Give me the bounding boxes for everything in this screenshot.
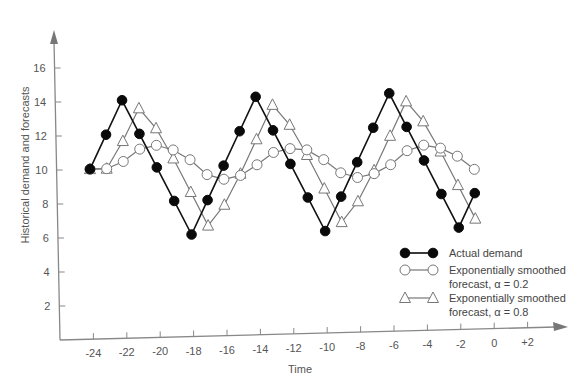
x-axis-line [60, 327, 556, 340]
x-tick-label: -2 [456, 338, 466, 350]
open-circle-marker-icon [336, 168, 346, 178]
filled-circle-marker-icon [219, 161, 229, 171]
open-circle-marker-icon [252, 160, 262, 170]
filled-circle-marker-icon [85, 164, 95, 174]
filled-circle-marker-icon [352, 157, 362, 167]
filled-circle-marker-icon [101, 130, 111, 140]
filled-circle-marker-icon [251, 92, 261, 102]
open-circle-marker-icon [469, 164, 479, 174]
filled-circle-marker-icon [454, 223, 464, 233]
open-circle-marker-icon [168, 145, 178, 155]
filled-circle-marker-icon [286, 159, 296, 169]
filled-circle-marker-icon [135, 129, 145, 139]
open-triangle-marker-icon [401, 95, 412, 106]
open-triangle-marker-icon [267, 99, 278, 110]
open-triangle-marker-icon [385, 130, 396, 141]
x-tick-label: -16 [219, 344, 235, 356]
open-circle-marker-icon [285, 144, 295, 154]
open-circle-marker-icon [386, 160, 396, 170]
x-tick-label: +2 [521, 336, 534, 348]
y-axis-title: Historical demand and forecasts [19, 86, 31, 244]
y-tick-label: 2 [44, 300, 50, 312]
x-tick-label: -6 [389, 339, 399, 351]
open-circle-marker-icon [151, 140, 161, 150]
open-triangle-marker-icon [352, 195, 363, 206]
filled-circle-marker-icon [384, 89, 394, 99]
open-circle-marker-icon [452, 151, 462, 161]
x-tick-label: -12 [286, 342, 302, 354]
open-circle-marker-icon [302, 145, 312, 155]
open-triangle-marker-icon [185, 186, 196, 197]
legend-label: Actual demand [449, 247, 522, 259]
legend-sublabel: forecast, α = 0.2 [449, 278, 528, 290]
y-tick-label: 8 [42, 198, 48, 210]
x-tick-label: -14 [252, 343, 268, 355]
open-triangle-marker-icon [452, 179, 463, 190]
demand-forecast-chart: 246810121416-24-22-20-18-16-14-12-10-8-6… [0, 0, 586, 388]
filled-circle-marker-icon [336, 192, 346, 202]
x-tick-label: -10 [319, 341, 335, 353]
y-axis-arrow-icon [50, 30, 58, 44]
filled-circle-marker-icon [402, 122, 412, 132]
axes: 246810121416-24-22-20-18-16-14-12-10-8-6… [19, 30, 568, 375]
open-circle-marker-icon [268, 147, 278, 157]
open-circle-marker-icon [202, 170, 212, 180]
y-axis-line [54, 40, 60, 340]
legend: Actual demandExponentially smoothedforec… [400, 247, 566, 318]
x-tick-label: -24 [85, 347, 101, 359]
open-triangle-marker-icon [400, 292, 411, 303]
open-triangle-marker-icon [117, 135, 128, 146]
filled-circle-marker-icon [320, 226, 330, 236]
x-tick-label: -18 [186, 345, 202, 357]
filled-circle-marker-icon [428, 248, 438, 258]
open-circle-marker-icon [219, 174, 229, 184]
series-filled-circle [85, 89, 479, 240]
legend-label: Exponentially smoothed [449, 264, 566, 276]
open-triangle-marker-icon [251, 133, 262, 144]
open-circle-marker-icon [419, 140, 429, 150]
open-circle-marker-icon [236, 170, 246, 180]
filled-circle-marker-icon [268, 126, 278, 136]
series-group [85, 89, 481, 240]
legend-item: Exponentially smoothedforecast, α = 0.2 [400, 264, 566, 290]
y-tick-label: 6 [43, 232, 49, 244]
open-circle-marker-icon [135, 144, 145, 154]
filled-circle-marker-icon [203, 195, 213, 205]
x-tick-label: 0 [491, 337, 497, 349]
filled-circle-marker-icon [400, 248, 410, 258]
series-line [90, 101, 475, 225]
x-tick-label: -4 [423, 338, 433, 350]
filled-circle-marker-icon [368, 123, 378, 133]
open-triangle-marker-icon [428, 292, 439, 303]
y-tick-label: 10 [35, 164, 47, 176]
filled-circle-marker-icon [437, 189, 447, 199]
open-circle-marker-icon [353, 172, 363, 182]
legend-sublabel: forecast, α = 0.8 [449, 306, 528, 318]
y-tick-label: 16 [33, 62, 45, 74]
open-circle-marker-icon [428, 265, 438, 275]
filled-circle-marker-icon [470, 188, 480, 198]
open-circle-marker-icon [102, 164, 112, 174]
open-circle-marker-icon [118, 156, 128, 166]
filled-circle-marker-icon [187, 230, 197, 240]
open-circle-marker-icon [369, 169, 379, 179]
filled-circle-marker-icon [303, 193, 313, 203]
filled-circle-marker-icon [152, 163, 162, 173]
legend-item: Exponentially smoothedforecast, α = 0.8 [400, 292, 566, 318]
open-triangle-marker-icon [319, 183, 330, 194]
x-tick-label: -20 [152, 345, 168, 357]
open-circle-marker-icon [319, 155, 329, 165]
y-tick-label: 4 [44, 266, 50, 278]
legend-item: Actual demand [400, 247, 522, 259]
filled-circle-marker-icon [117, 95, 127, 105]
y-tick-label: 14 [34, 96, 46, 108]
open-circle-marker-icon [435, 143, 445, 153]
x-axis-arrow-icon [553, 322, 568, 331]
open-circle-marker-icon [402, 146, 412, 156]
y-tick-label: 12 [35, 130, 47, 142]
filled-circle-marker-icon [235, 126, 245, 136]
filled-circle-marker-icon [419, 156, 429, 166]
legend-label: Exponentially smoothed [449, 292, 566, 304]
open-circle-marker-icon [400, 265, 410, 275]
open-triangle-marker-icon [470, 213, 481, 224]
